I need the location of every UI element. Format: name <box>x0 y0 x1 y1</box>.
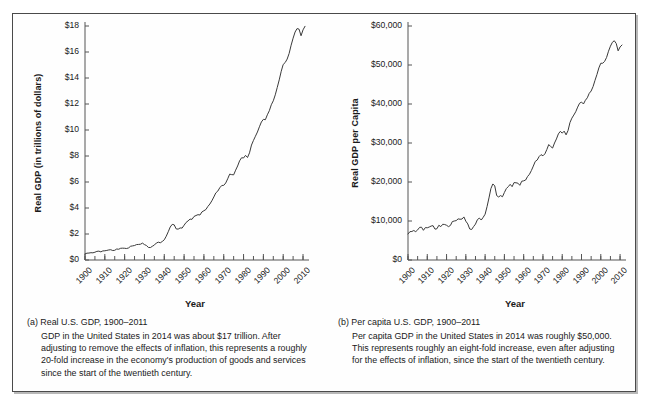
y-tick-label: $8 <box>13 150 79 160</box>
y-tick-label: $20,000 <box>324 176 402 186</box>
y-tick-label: $0 <box>324 254 402 264</box>
y-tick-label: $14 <box>13 72 79 82</box>
y-tick-label: $12 <box>13 98 79 108</box>
y-tick-label: $30,000 <box>324 137 402 147</box>
y-tick-label: $10 <box>13 124 79 134</box>
data-line <box>85 26 305 254</box>
y-tick-label: $40,000 <box>324 98 402 108</box>
y-tick-label: $10,000 <box>324 215 402 225</box>
y-tick-label: $60,000 <box>324 20 402 30</box>
y-tick-label: $16 <box>13 46 79 56</box>
y-tick-label: $2 <box>13 228 79 238</box>
panel-a: Real GDP (in trillions of dollars) Year … <box>13 14 324 391</box>
x-axis-title-a: Year <box>85 298 305 309</box>
y-tick-label: $6 <box>13 176 79 186</box>
y-tick-label: $18 <box>13 20 79 30</box>
chart-a: Real GDP (in trillions of dollars) Year … <box>13 14 324 314</box>
y-tick-label: $4 <box>13 202 79 212</box>
y-tick-label: $50,000 <box>324 59 402 69</box>
panel-b: Real GDP per Capita Year $60,000$50,000$… <box>324 14 635 391</box>
caption-head-b: (b) Per capita U.S. GDP, 1900–2011 <box>338 316 627 328</box>
y-axis-title-a: Real GDP (in trillions of dollars) <box>33 26 43 260</box>
caption-head-a: (a) Real U.S. GDP, 1900–2011 <box>27 316 316 328</box>
chart-b: Real GDP per Capita Year $60,000$50,000$… <box>324 14 635 314</box>
data-line <box>408 41 622 234</box>
caption-body-a: GDP in the United States in 2014 was abo… <box>41 330 314 379</box>
caption-body-b: Per capita GDP in the United States in 2… <box>352 330 625 367</box>
x-axis-title-b: Year <box>408 298 622 309</box>
y-tick-label: $0 <box>13 254 79 264</box>
figure-frame: Real GDP (in trillions of dollars) Year … <box>12 13 636 392</box>
